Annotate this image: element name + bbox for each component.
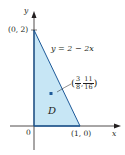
x-axis-arrow-icon bbox=[114, 124, 121, 129]
diagram-canvas bbox=[0, 0, 125, 155]
origin-label: 0 bbox=[26, 128, 31, 137]
region-label: D bbox=[48, 105, 56, 116]
y-axis-label: y bbox=[24, 6, 28, 15]
centroid-label: (38,1116) bbox=[71, 76, 97, 91]
centroid-y-den: 16 bbox=[84, 84, 92, 91]
region-diagram: y (0, 2) y = 2 − 2x (38,1116) D 0 (1, 0)… bbox=[0, 0, 125, 155]
vertex-label-0-2: (0, 2) bbox=[8, 25, 28, 34]
y-axis-arrow-icon bbox=[32, 11, 37, 18]
centroid-y-frac: 1116 bbox=[83, 76, 93, 91]
curve-label: y = 2 − 2x bbox=[51, 44, 94, 53]
x-axis-label: x bbox=[112, 129, 116, 138]
centroid-x-den: 8 bbox=[76, 84, 80, 91]
centroid-paren-close: ) bbox=[94, 77, 98, 88]
vertex-label-1-0: (1, 0) bbox=[71, 129, 91, 138]
centroid-point bbox=[50, 92, 53, 95]
